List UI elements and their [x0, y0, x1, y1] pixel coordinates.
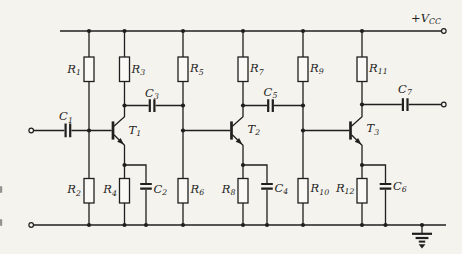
junction-dot: [87, 29, 91, 33]
resistor-R6: R6: [178, 179, 204, 204]
label-R5: R5: [189, 61, 204, 77]
capacitor-C4: C4: [261, 181, 288, 197]
junction-dot: [420, 223, 424, 227]
resistor-R12: R12: [335, 179, 367, 204]
junction-dot: [87, 128, 91, 132]
capacitor-C1: C1: [59, 109, 73, 137]
resistor-R1-body: [84, 57, 94, 82]
scan-artifact-lower: [0, 219, 2, 226]
label-R2: R2: [66, 182, 81, 198]
junction-dot: [87, 223, 91, 227]
capacitor-C3: C3: [145, 86, 159, 113]
junction-dot: [181, 29, 185, 33]
label-R9: R9: [309, 61, 324, 77]
junction-dot: [301, 29, 305, 33]
resistor-R8-body: [238, 179, 248, 204]
schematic-canvas: R1 R3 R5 R7 R9 R11 R2 R4: [0, 0, 462, 254]
resistor-R9: R9: [298, 57, 324, 82]
resistor-R3-body: [120, 57, 130, 82]
vcc-label: +VCC: [411, 11, 441, 27]
input-terminal: [29, 128, 34, 133]
junction-dot: [122, 103, 126, 107]
junction-dot: [181, 103, 185, 107]
label-T1: T1: [129, 123, 142, 139]
resistor-R7: R7: [238, 57, 264, 82]
junction-dot: [301, 223, 305, 227]
label-R8: R8: [221, 182, 236, 198]
label-T3: T3: [367, 121, 380, 137]
label-C7: C7: [398, 82, 412, 98]
label-C5: C5: [264, 85, 278, 101]
junction-dot: [360, 102, 364, 106]
resistor-R5-body: [178, 57, 188, 82]
junction-dot: [360, 163, 364, 167]
capacitor-C5-symbol: [268, 99, 273, 112]
label-R4: R4: [102, 182, 117, 198]
junction-dot: [383, 223, 387, 227]
common-terminal-left: [29, 223, 34, 228]
junction-dot: [181, 128, 185, 132]
capacitor-C6: C6: [380, 179, 407, 195]
resistor-R7-body: [238, 57, 248, 82]
resistor-R3: R3: [120, 57, 146, 82]
ground-symbol: [412, 234, 432, 249]
capacitor-C4-symbol: [261, 184, 273, 189]
output-terminal: [442, 102, 447, 107]
resistor-R2-body: [84, 179, 94, 204]
resistor-R10-body: [298, 179, 308, 204]
resistor-R10: R10: [298, 179, 329, 204]
label-R11: R11: [368, 61, 388, 77]
label-R7: R7: [249, 61, 264, 77]
transistor-T2: T2: [232, 121, 261, 146]
junction-dot: [144, 223, 148, 227]
junction-dot: [241, 29, 245, 33]
resistor-R9-body: [298, 57, 308, 82]
junction-dot: [122, 29, 126, 33]
resistor-R11: R11: [357, 57, 388, 82]
figure-schematic: R1 R3 R5 R7 R9 R11 R2 R4: [0, 0, 462, 254]
label-R12: R12: [335, 181, 355, 197]
junction-dot: [181, 223, 185, 227]
transistor-T3: T3: [351, 121, 380, 146]
junction-dot: [122, 223, 126, 227]
junction-dot: [360, 29, 364, 33]
ground-triangle: [419, 244, 426, 248]
capacitor-C2: C2: [140, 182, 167, 198]
scan-artifact-upper: [0, 186, 2, 193]
resistor-R5: R5: [178, 57, 204, 82]
resistor-R6-body: [178, 179, 188, 204]
capacitor-C7-symbol: [403, 98, 408, 111]
resistor-R4-body: [120, 179, 130, 204]
label-C4: C4: [275, 181, 289, 197]
junction-dot: [122, 163, 126, 167]
capacitor-C5: C5: [264, 85, 278, 113]
junction-dot: [241, 103, 245, 107]
label-R6: R6: [190, 182, 205, 198]
junction-dot: [301, 103, 305, 107]
resistor-R11-body: [357, 57, 367, 82]
label-R1: R1: [66, 62, 81, 78]
label-C2: C2: [154, 182, 168, 198]
vcc-terminal: [442, 29, 447, 34]
junction-dot: [265, 223, 269, 227]
capacitor-C6-symbol: [380, 184, 392, 189]
capacitor-C1-symbol: [66, 124, 71, 138]
junction-dot: [360, 223, 364, 227]
junction-dot: [301, 128, 305, 132]
capacitor-C2-symbol: [140, 184, 152, 189]
capacitor-C3-symbol: [150, 99, 155, 112]
label-R10: R10: [310, 181, 330, 197]
label-C1: C1: [59, 109, 73, 125]
junction-dot: [241, 223, 245, 227]
transistors: T1 T2 T3: [113, 121, 379, 146]
label-T2: T2: [248, 122, 261, 138]
junction-dot: [241, 163, 245, 167]
resistor-R2: R2: [66, 179, 94, 204]
resistor-R8: R8: [221, 179, 248, 204]
transistor-T1: T1: [113, 121, 141, 146]
capacitor-C7: C7: [398, 82, 412, 112]
scan-artifacts: [0, 186, 2, 226]
resistor-R12-body: [357, 179, 367, 204]
label-C3: C3: [145, 86, 159, 102]
label-R3: R3: [131, 62, 146, 78]
